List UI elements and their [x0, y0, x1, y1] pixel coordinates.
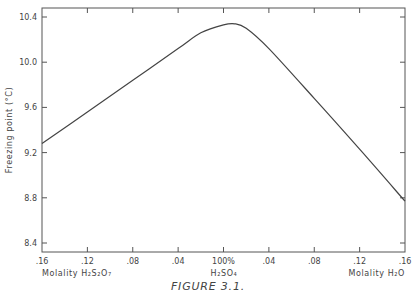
y-tick-label: 8.4: [24, 239, 37, 248]
x-axis-title-left: Molality H₂S₂O₇: [42, 269, 112, 278]
y-tick-label: 9.6: [24, 103, 37, 112]
chart: 10.410.09.69.28.88.4 .16.12.08.04100%.04…: [0, 0, 416, 303]
y-ticks: 10.410.09.69.28.88.4: [19, 13, 405, 248]
y-tick-label: 10.4: [19, 13, 37, 22]
x-axis-title-center: H₂SO₄: [211, 269, 238, 278]
x-tick-label: 100%: [212, 257, 235, 266]
x-tick-label: .04: [263, 257, 276, 266]
x-tick-label: .16: [399, 257, 412, 266]
freezing-point-curve: [42, 23, 405, 201]
x-ticks: .16.12.08.04100%.04.08.12.16: [36, 8, 412, 266]
y-tick-label: 8.8: [24, 194, 37, 203]
x-tick-label: .08: [126, 257, 139, 266]
y-tick-label: 9.2: [24, 149, 37, 158]
x-tick-label: .04: [172, 257, 185, 266]
x-tick-label: .16: [36, 257, 49, 266]
figure-caption: FIGURE 3.1.: [0, 280, 416, 293]
y-tick-label: 10.0: [19, 58, 37, 67]
x-tick-label: .12: [353, 257, 366, 266]
x-axis-title-right: Molality H₂O: [348, 269, 405, 278]
y-axis-title: Freezing point (°C): [5, 87, 14, 173]
x-tick-label: .08: [308, 257, 321, 266]
x-tick-label: .12: [81, 257, 94, 266]
plot-frame: [42, 8, 405, 252]
